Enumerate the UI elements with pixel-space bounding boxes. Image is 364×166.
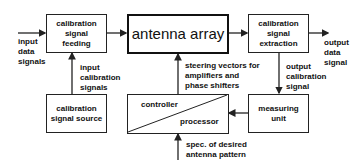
calibration-signal-extraction-block: calibration signal extraction [248,14,309,53]
calibration-signal-feeding-block: calibration signal feeding [46,14,107,53]
input-calibration-signals-label: input calibration signals [80,63,120,93]
processor-label: processor [180,117,219,126]
calibration-signal-source-block: calibration signal source [46,94,107,133]
output-calibration-signal-label: output calibration signal [286,62,326,92]
measuring-unit-block: measuring unit [248,94,309,133]
antenna-pattern-spec-label: spec. of desired antenna pattern [186,140,247,160]
input-data-signals-label: input data signals [18,37,46,67]
controller-label: controller [141,100,178,109]
output-data-signal-label: output data signal [324,38,349,68]
antenna-array-block: antenna array [127,14,229,54]
steering-vectors-label: steering vectors for amplifiers and phas… [185,61,260,91]
